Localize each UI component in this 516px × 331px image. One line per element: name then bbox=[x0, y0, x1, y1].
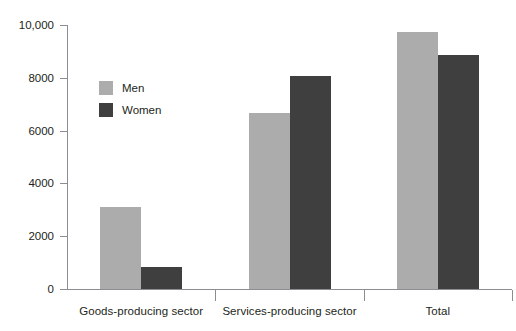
legend-label-men: Men bbox=[122, 82, 144, 94]
y-tick-label: 10,000 bbox=[0, 19, 54, 31]
bar-women-1 bbox=[290, 76, 331, 289]
category-label: Total bbox=[426, 305, 451, 317]
y-tick-mark bbox=[60, 289, 67, 290]
category-label: Goods-producing sector bbox=[79, 305, 203, 317]
bar-men-0 bbox=[100, 207, 141, 289]
y-tick-label: 6000 bbox=[0, 125, 54, 137]
bar-men-2 bbox=[397, 32, 438, 289]
y-tick-mark bbox=[60, 183, 67, 184]
y-tick-mark bbox=[60, 25, 67, 26]
legend-label-women: Women bbox=[122, 104, 161, 116]
legend-item-women: Women bbox=[99, 99, 161, 121]
y-tick-label: 0 bbox=[0, 283, 54, 295]
legend: Men Women bbox=[99, 77, 161, 121]
bar-women-2 bbox=[438, 55, 479, 289]
x-separator-tick bbox=[364, 290, 365, 301]
x-separator-tick bbox=[512, 290, 513, 301]
category-label: Services-producing sector bbox=[222, 305, 356, 317]
x-axis-line bbox=[67, 289, 512, 290]
y-axis-line bbox=[67, 25, 68, 290]
bar-chart: 0200040006000800010,000 Goods-producing … bbox=[0, 0, 516, 331]
y-tick-label: 2000 bbox=[0, 230, 54, 242]
y-tick-label: 8000 bbox=[0, 72, 54, 84]
y-tick-label: 4000 bbox=[0, 177, 54, 189]
y-tick-mark bbox=[60, 236, 67, 237]
legend-swatch-women-icon bbox=[99, 103, 113, 117]
bar-men-1 bbox=[249, 113, 290, 289]
bar-women-0 bbox=[141, 267, 182, 289]
legend-swatch-men-icon bbox=[99, 81, 113, 95]
y-tick-mark bbox=[60, 131, 67, 132]
x-separator-tick bbox=[215, 290, 216, 301]
y-tick-mark bbox=[60, 78, 67, 79]
legend-item-men: Men bbox=[99, 77, 161, 99]
